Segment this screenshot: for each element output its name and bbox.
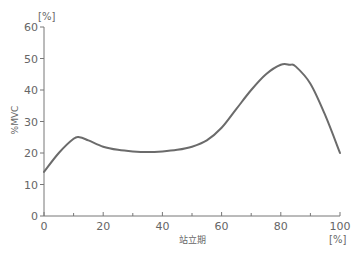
x-tick-label: 0 — [41, 220, 48, 233]
tick-marks — [40, 27, 340, 216]
y-tick-label: 0 — [31, 210, 38, 223]
y-tick-label: 10 — [24, 179, 38, 192]
y-tick-label: 30 — [24, 116, 38, 129]
y-tick-label: 50 — [24, 53, 38, 66]
y-unit-label: [%] — [38, 11, 55, 22]
x-axis-label: 站立期 — [179, 234, 206, 245]
y-tick-label: 20 — [24, 147, 38, 160]
x-unit-label: [%] — [329, 234, 346, 245]
x-tick-label: 20 — [96, 220, 110, 233]
line-chart: 0102030405060020406080100 [%] [%] 站立期 %M… — [0, 0, 359, 255]
x-tick-label: 100 — [330, 220, 351, 233]
x-tick-label: 40 — [155, 220, 169, 233]
x-tick-label: 80 — [274, 220, 288, 233]
x-tick-label: 60 — [215, 220, 229, 233]
tick-labels: 0102030405060020406080100 — [24, 21, 351, 233]
series-line — [44, 64, 340, 172]
axes — [44, 27, 340, 216]
y-axis-label: %MVC — [10, 106, 20, 135]
y-tick-label: 40 — [24, 84, 38, 97]
y-tick-label: 60 — [24, 21, 38, 34]
